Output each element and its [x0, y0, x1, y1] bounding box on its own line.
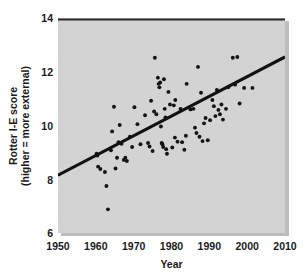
data-point: [191, 107, 195, 111]
data-point: [159, 125, 163, 129]
data-point: [193, 126, 197, 130]
data-point: [148, 145, 152, 149]
x-tick-label-1970: 1970: [122, 240, 146, 252]
chart-canvas: 14 12 10 8 6 1950 1960 1970 1980 1990 20…: [0, 0, 306, 279]
data-point: [112, 105, 116, 109]
y-tick-label-8: 8: [47, 174, 53, 186]
data-point: [212, 104, 216, 108]
x-tick-label-1960: 1960: [84, 240, 108, 252]
plot-shadow-right: [285, 21, 289, 236]
data-point: [221, 118, 225, 122]
data-point: [185, 82, 189, 86]
data-point: [164, 147, 168, 151]
data-point: [173, 98, 177, 102]
data-point: [204, 116, 208, 120]
data-point: [199, 91, 203, 95]
plot-area-background: [58, 18, 285, 233]
data-point: [176, 140, 180, 144]
y-tick-label-6: 6: [47, 227, 53, 239]
data-point: [201, 139, 205, 143]
data-point: [98, 167, 102, 171]
data-point: [125, 159, 129, 163]
data-point: [143, 113, 147, 117]
x-tick-label-1990: 1990: [198, 240, 222, 252]
data-point: [165, 152, 169, 156]
x-tick-label-1980: 1980: [160, 240, 184, 252]
data-point: [198, 135, 202, 139]
data-point: [157, 85, 161, 89]
data-point: [251, 86, 255, 90]
data-point: [104, 184, 108, 188]
data-point: [210, 98, 214, 102]
x-axis-title: Year: [160, 258, 182, 270]
data-point: [132, 105, 136, 109]
data-point: [158, 81, 162, 85]
data-point: [242, 86, 246, 90]
data-point: [235, 55, 239, 59]
x-tick-label-1950: 1950: [46, 240, 70, 252]
data-point: [182, 148, 186, 152]
data-point: [149, 99, 153, 103]
data-point: [196, 65, 200, 69]
data-point: [173, 136, 177, 140]
data-point: [238, 102, 242, 106]
data-point: [106, 207, 110, 211]
data-point: [206, 138, 210, 142]
x-tick-label-2010: 2010: [273, 240, 297, 252]
data-point: [195, 131, 199, 135]
data-point: [168, 103, 172, 107]
data-point: [184, 134, 188, 138]
data-point: [118, 123, 122, 127]
data-point: [202, 121, 206, 125]
y-tick-label-10: 10: [41, 120, 53, 132]
data-point: [231, 56, 235, 60]
data-point: [114, 167, 118, 171]
y-tick-label-12: 12: [41, 66, 53, 78]
data-point: [180, 140, 184, 144]
plot-shadow-bottom: [61, 233, 289, 236]
data-point: [163, 107, 167, 111]
data-point: [213, 114, 217, 118]
data-point: [170, 146, 174, 150]
data-point: [167, 90, 171, 94]
data-point: [154, 112, 158, 116]
data-point: [162, 77, 166, 81]
data-point: [146, 141, 150, 145]
data-point: [172, 103, 176, 107]
x-tick-label-2000: 2000: [236, 240, 260, 252]
data-point: [219, 103, 223, 107]
data-point: [156, 76, 160, 80]
data-point: [218, 112, 222, 116]
data-point: [115, 156, 119, 160]
data-point: [136, 122, 140, 126]
scatter-plot-figure: 14 12 10 8 6 1950 1960 1970 1980 1990 20…: [0, 0, 306, 279]
data-point: [151, 149, 155, 153]
data-point: [110, 129, 114, 133]
data-point: [224, 107, 228, 111]
data-point: [139, 142, 143, 146]
data-point: [216, 108, 220, 112]
data-point: [208, 118, 212, 122]
data-point: [130, 145, 134, 149]
data-point: [153, 56, 157, 60]
y-axis-title-line2: (higher = more external): [19, 66, 31, 186]
y-axis-title-line1: Rotter I-E score: [7, 87, 19, 165]
data-point: [103, 170, 107, 174]
y-tick-label-14: 14: [41, 12, 53, 24]
